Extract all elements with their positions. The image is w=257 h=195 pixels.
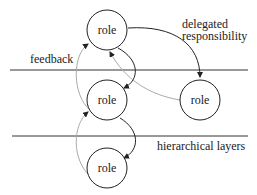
svg-text:role: role [98, 23, 117, 37]
hierarchical-layers-label: hierarchical layers [157, 139, 246, 153]
role-node-top: role [87, 10, 127, 50]
role-node-bottom: role [87, 148, 127, 188]
delegation-arrow-bottom [120, 118, 136, 158]
role-hierarchy-diagram: role role role role delegated responsibi… [0, 0, 257, 195]
svg-text:role: role [98, 161, 117, 175]
role-node-middle: role [87, 80, 127, 120]
role-node-right: role [180, 80, 220, 120]
delegated-label-line2: responsibility [182, 29, 247, 43]
feedback-label: feedback [30, 52, 73, 66]
svg-text:role: role [98, 93, 117, 107]
svg-text:role: role [191, 93, 210, 107]
